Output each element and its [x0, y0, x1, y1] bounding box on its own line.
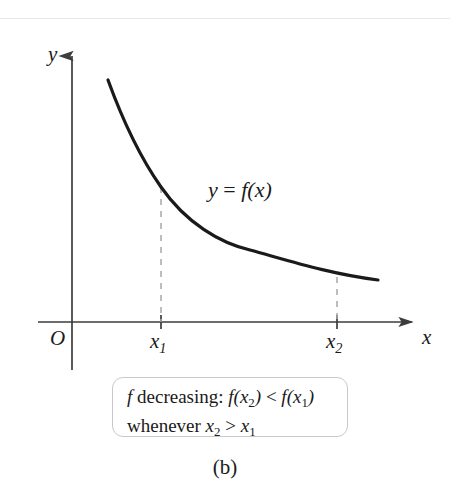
x1-variable: x	[150, 329, 159, 353]
figure-panel-b: y x O x1 x2 y = f(x) f decreasing: f(x2)…	[0, 0, 450, 501]
caption-line-1: f decreasing: f(x2) < f(x1)	[127, 385, 341, 414]
x2-tick-label: x2	[326, 331, 342, 355]
caption-callout-box: f decreasing: f(x2) < f(x1) whenever x2 …	[112, 377, 348, 437]
caption-text-block: f decreasing: f(x2) < f(x1) whenever x2 …	[127, 385, 341, 443]
caption-arg2-close: )	[308, 386, 314, 407]
x2-variable: x	[326, 329, 335, 353]
caption-whenever-text: whenever	[127, 415, 206, 436]
caption-var-x1: x	[241, 415, 249, 436]
panel-letter-label: (b)	[0, 455, 450, 480]
caption-var-x2: x	[206, 415, 214, 436]
caption-greater-than: >	[221, 415, 241, 436]
origin-label: O	[50, 328, 65, 349]
caption-arg2-open: (x	[287, 386, 302, 407]
caption-line-2: whenever x2 > x1	[127, 414, 341, 443]
curve-equation-lhs: y	[208, 177, 218, 202]
x1-subscript: 1	[159, 340, 166, 356]
x-axis-label: x	[422, 327, 431, 348]
caption-arg1-open: (x	[234, 386, 249, 407]
caption-decreasing-text: decreasing:	[132, 386, 228, 407]
y-axis-label: y	[48, 44, 57, 65]
caption-var-x1-subscript: 1	[249, 424, 255, 439]
curve-equation-label: y = f(x)	[208, 179, 272, 201]
caption-less-than: <	[261, 386, 281, 407]
curve-equation-equals: =	[218, 177, 241, 202]
x2-subscript: 2	[335, 340, 342, 356]
curve-equation-arg: (x)	[247, 177, 271, 202]
x1-tick-label: x1	[150, 331, 166, 355]
